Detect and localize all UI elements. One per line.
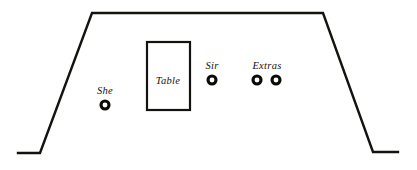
she-label: She [97,85,113,96]
diagram-canvas: Table She Sir Extras [0,0,417,170]
sir-marker-icon [208,76,216,84]
extras-marker-two-icon [272,76,280,84]
extras-label: Extras [251,60,281,71]
extras-marker-one-icon [253,76,261,84]
she-marker-icon [101,101,109,109]
table-label: Table [156,75,180,86]
stage-blocking-diagram: Table She Sir Extras [0,0,417,170]
sir-label: Sir [205,60,219,71]
